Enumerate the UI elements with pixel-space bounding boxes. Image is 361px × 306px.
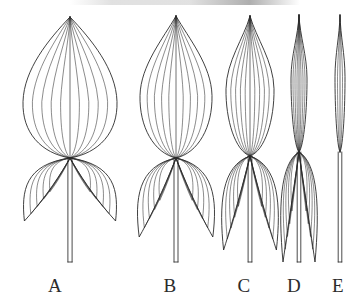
blade-vein-B	[147, 16, 176, 158]
basal-lobe-vein-B	[148, 158, 176, 219]
blade-vein-A	[70, 17, 98, 158]
blade-vein-A	[42, 17, 70, 158]
blade-outline-A	[23, 17, 70, 158]
blade-vein-B	[176, 16, 190, 158]
specimen-A	[23, 17, 117, 262]
specimen-C	[222, 16, 279, 262]
specimen-D	[281, 15, 318, 262]
blade-vein-B	[176, 16, 205, 158]
blade-outline-A	[70, 17, 117, 158]
blade-vein-A	[70, 17, 89, 158]
basal-lobe-vein-A	[70, 158, 110, 214]
specimen-label-e: E	[325, 275, 351, 297]
specimen-label-d: D	[281, 275, 307, 297]
specimen-B	[137, 16, 214, 262]
basal-lobe-vein-A	[30, 158, 70, 214]
leaf-illustration-plate	[0, 0, 361, 306]
basal-lobe-vein-A	[37, 158, 70, 206]
specimen-label-c: C	[231, 275, 257, 297]
basal-lobe-vein-A	[70, 158, 103, 206]
specimen-label-b: B	[157, 275, 183, 297]
blade-vein-A	[51, 17, 70, 158]
specimen-E	[335, 15, 345, 262]
leaf-shape-figure: ABCDE	[0, 0, 361, 306]
blade-vein-B	[162, 16, 176, 158]
basal-lobe-vein-B	[176, 158, 204, 219]
specimen-label-a: A	[42, 275, 68, 297]
